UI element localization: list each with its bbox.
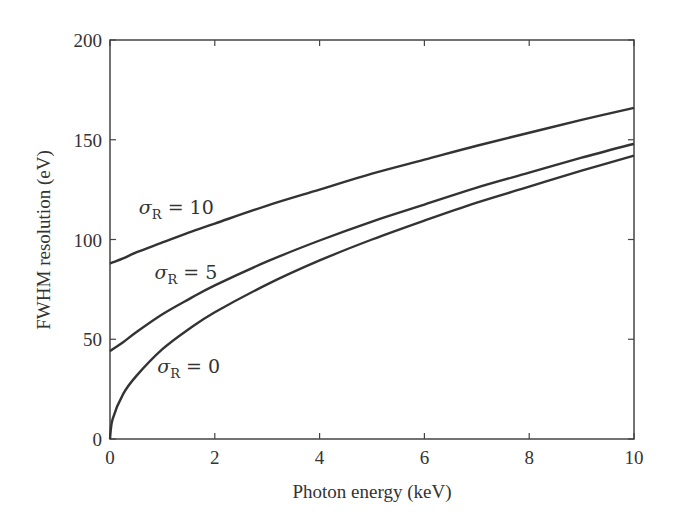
y-tick-label: 200: [74, 30, 103, 51]
annotation-label-2: σR = 0: [157, 355, 220, 381]
x-tick-label: 6: [420, 447, 430, 468]
x-tick-label: 8: [524, 447, 534, 468]
y-tick-label: 50: [83, 329, 102, 350]
y-tick-label: 150: [74, 130, 103, 151]
x-tick-label: 4: [315, 447, 325, 468]
annotation-label-0: σR = 10: [139, 196, 214, 222]
y-tick-label: 0: [93, 429, 103, 450]
x-tick-label: 2: [210, 447, 220, 468]
x-tick-label: 10: [625, 447, 644, 468]
annotation-label-1: σR = 5: [155, 261, 218, 287]
chart: 0246810050100150200 σR = 10σR = 5σR = 0 …: [0, 0, 677, 524]
x-axis-title: Photon energy (keV): [292, 481, 451, 503]
x-tick-label: 0: [105, 447, 115, 468]
y-axis-title: FWHM resolution (eV): [33, 150, 55, 329]
axis-tick-labels: 0246810050100150200: [74, 30, 644, 468]
y-tick-label: 100: [74, 230, 103, 251]
